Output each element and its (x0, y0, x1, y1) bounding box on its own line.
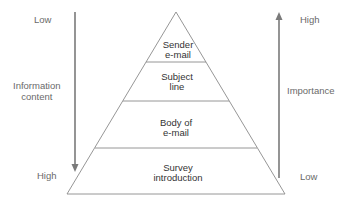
down-arrow-icon (72, 12, 79, 172)
tier-label-line2: introduction (153, 173, 202, 183)
left-axis-bottom-label: High (37, 170, 57, 181)
right-axis-top-label: High (300, 14, 320, 25)
tier-label-line2: line (161, 82, 193, 92)
right-axis-middle-label: Importance (287, 85, 335, 96)
left-axis-middle-label-line2: content (13, 91, 61, 102)
right-axis-bottom-label: Low (300, 171, 317, 182)
left-axis-top-label: Low (34, 14, 51, 25)
tier-label-line2: e-mail (163, 50, 194, 60)
left-axis-middle-label-line1: Information (13, 80, 61, 91)
tier-survey-introduction: Survey introduction (153, 163, 202, 183)
tier-sender-email: Sender e-mail (163, 40, 194, 60)
tier-subject-line: Subject line (161, 72, 193, 92)
tier-body-of-email: Body of e-mail (160, 118, 192, 138)
left-axis-middle-label: Information content (13, 80, 61, 102)
tier-label-line2: e-mail (160, 128, 192, 138)
up-arrow-icon (276, 12, 283, 178)
